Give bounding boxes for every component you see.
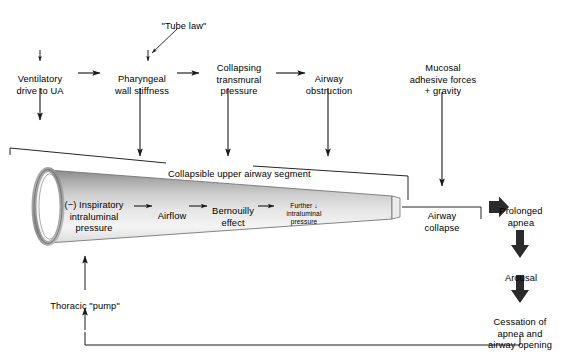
node-collapsing-transmural-pressure: Collapsing transmural pressure xyxy=(200,52,278,109)
node-airway-obstruction: Airway obstruction xyxy=(292,63,366,109)
node-ventilatory-drive: Ventilatory drive to UA xyxy=(0,63,80,109)
node-cessation-of-apnea: Cessation of apnea and airway opening xyxy=(476,306,564,353)
node-prolonged-apnea: Prolonged apnea xyxy=(482,195,560,241)
node-arousal: Arousal xyxy=(482,262,560,296)
node-collapsible-segment-label: Collapsible upper airway segment xyxy=(168,158,252,192)
node-airway-collapse: Airway collapse xyxy=(409,200,475,246)
node-tube-law: "Tube law" xyxy=(146,10,222,44)
airway-collapse-diagram: "Tube law" Ventilatory drive to UA Phary… xyxy=(0,0,564,353)
node-pharyngeal-wall-stiffness: Pharyngeal wall stiffness xyxy=(104,63,180,109)
node-inspiratory-intraluminal-pressure: (−) Inspiratory intraluminal pressure xyxy=(52,189,136,246)
feedback-loop-line xyxy=(85,332,520,345)
node-mucosal-adhesive-forces: Mucosal adhesive forces + gravity xyxy=(392,52,494,109)
node-bernoulli-effect: Bernouilly effect xyxy=(204,195,262,241)
node-airflow: Airflow xyxy=(152,200,192,234)
node-thoracic-pump: Thoracic "pump" xyxy=(38,290,132,324)
node-further-intraluminal-pressure: Further ↓ intraluminal pressure xyxy=(276,194,332,234)
top-row-inlet-arrows xyxy=(40,50,148,61)
